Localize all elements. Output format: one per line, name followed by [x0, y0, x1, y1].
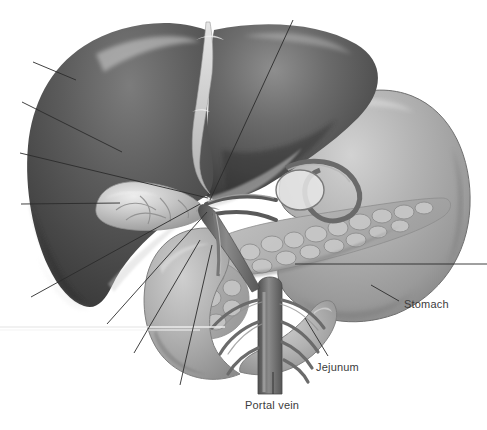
leader-line-overlay — [0, 0, 487, 430]
leader-line-3 — [20, 153, 208, 198]
leader-line-6 — [210, 20, 293, 200]
label-portal-vein: Portal vein — [245, 399, 299, 411]
anatomy-figure: Stomach Jejunum Portal vein — [0, 0, 487, 430]
leader-line-2 — [22, 102, 122, 152]
leader-line-jejunum — [305, 318, 328, 356]
label-jejunum: Jejunum — [316, 361, 359, 373]
leader-line-stomach — [371, 285, 399, 301]
leader-line-4 — [21, 203, 120, 204]
label-stomach: Stomach — [404, 298, 449, 310]
leader-line-1 — [33, 62, 76, 80]
leader-line-7 — [107, 212, 207, 324]
